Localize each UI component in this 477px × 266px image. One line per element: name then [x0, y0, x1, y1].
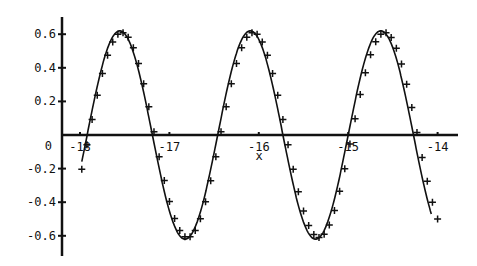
x-tick-label: -17	[159, 140, 181, 154]
data-point-marker	[434, 216, 441, 223]
y-tick-label: -0.4	[27, 195, 56, 209]
data-point-marker	[109, 38, 116, 45]
data-point-marker	[362, 69, 369, 76]
data-point-marker	[383, 29, 390, 36]
data-point-marker	[259, 38, 266, 45]
origin-label: 0	[45, 139, 52, 153]
chart-canvas: 0.60.40.2-0.2-0.4-0.6 -18-17-16-15-14 0 …	[0, 0, 477, 266]
data-point-marker	[419, 154, 426, 161]
y-tick-label: -0.6	[27, 229, 56, 243]
y-tick-label: 0.4	[34, 61, 56, 75]
data-point-marker	[357, 91, 364, 98]
data-point-marker	[408, 104, 415, 111]
y-tick-label: 0.2	[34, 94, 56, 108]
x-axis-label: x	[255, 149, 262, 163]
data-point-marker	[78, 166, 85, 173]
data-point-marker	[254, 31, 261, 38]
y-tick-label: 0.6	[34, 27, 56, 41]
data-point-marker	[114, 31, 121, 38]
data-point-marker	[429, 199, 436, 206]
x-tick-label: -14	[427, 140, 449, 154]
y-ticks: 0.60.40.2-0.2-0.4-0.6	[27, 27, 66, 243]
y-tick-label: -0.2	[27, 162, 56, 176]
data-point-marker	[424, 178, 431, 185]
x-tick-label: -15	[337, 140, 359, 154]
